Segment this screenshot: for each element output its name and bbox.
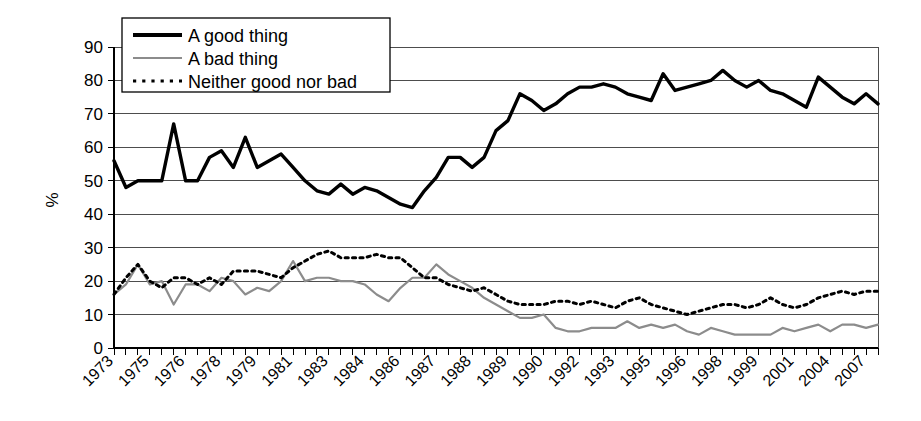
- y-axis-title: %: [43, 192, 62, 207]
- x-tick-label: 1999: [724, 352, 761, 389]
- x-tick-label: 1981: [258, 352, 295, 389]
- x-tick-label-group: 1993: [580, 352, 617, 389]
- y-tick-label: 30: [84, 239, 103, 258]
- x-tick-label-group: 1988: [437, 352, 474, 389]
- legend-label-1: A bad thing: [188, 49, 278, 69]
- x-tick-label: 1989: [473, 352, 510, 389]
- y-tick-label: 10: [84, 306, 103, 325]
- x-tick-label: 1973: [79, 352, 116, 389]
- x-tick-label-group: 1987: [401, 352, 438, 389]
- x-tick-label: 2001: [759, 352, 796, 389]
- x-tick-label-group: 2001: [759, 352, 796, 389]
- x-tick-label-group: 1973: [79, 352, 116, 389]
- y-tick-label: 90: [84, 38, 103, 57]
- x-tick-label-group: 1989: [473, 352, 510, 389]
- x-tick-label-group: 1995: [616, 352, 653, 389]
- x-tick-label: 1976: [151, 352, 188, 389]
- x-tick-label-group: 1998: [688, 352, 725, 389]
- x-tick-label: 1998: [688, 352, 725, 389]
- x-tick-label: 2004: [795, 352, 832, 389]
- x-tick-label-group: 1978: [186, 352, 223, 389]
- chart-container: 0102030405060708090 19731975197619781979…: [0, 0, 921, 421]
- x-tick-label: 1975: [115, 352, 152, 389]
- x-tick-label-group: 2007: [831, 352, 868, 389]
- x-tick-label-group: 1990: [509, 352, 546, 389]
- x-tick-label-group: 1976: [151, 352, 188, 389]
- x-tick-label: 1983: [294, 352, 331, 389]
- x-tick-label-group: 1986: [365, 352, 402, 389]
- y-axis-tick-labels: 0102030405060708090: [84, 38, 103, 358]
- x-tick-label-group: 2004: [795, 352, 832, 389]
- x-tick-label: 1978: [186, 352, 223, 389]
- x-tick-label: 1993: [580, 352, 617, 389]
- legend-label-0: A good thing: [188, 26, 288, 46]
- y-tick-label: 50: [84, 172, 103, 191]
- axis-tickmarks: [108, 47, 878, 355]
- x-tick-label: 1996: [652, 352, 689, 389]
- x-tick-label: 1990: [509, 352, 546, 389]
- x-tick-label-group: 1981: [258, 352, 295, 389]
- line-chart: 0102030405060708090 19731975197619781979…: [0, 0, 921, 421]
- x-tick-label: 2007: [831, 352, 868, 389]
- y-tick-label: 40: [84, 205, 103, 224]
- y-tick-label: 20: [84, 272, 103, 291]
- x-tick-label: 1984: [330, 352, 367, 389]
- series-line-1: [114, 261, 878, 335]
- x-tick-label-group: 1975: [115, 352, 152, 389]
- x-tick-label-group: 1996: [652, 352, 689, 389]
- x-tick-label: 1987: [401, 352, 438, 389]
- data-series: [114, 70, 878, 334]
- x-tick-label: 1986: [365, 352, 402, 389]
- x-tick-label: 1992: [544, 352, 581, 389]
- y-tick-label: 70: [84, 105, 103, 124]
- y-tick-label: 60: [84, 138, 103, 157]
- chart-legend: A good thingA bad thingNeither good nor …: [122, 18, 390, 92]
- x-tick-label-group: 1992: [544, 352, 581, 389]
- x-tick-label: 1995: [616, 352, 653, 389]
- x-axis-tick-labels: 1973197519761978197919811983198419861987…: [79, 352, 868, 389]
- x-tick-label: 1979: [222, 352, 259, 389]
- x-tick-label: 1988: [437, 352, 474, 389]
- y-tick-label: 80: [84, 71, 103, 90]
- x-tick-label-group: 1983: [294, 352, 331, 389]
- x-tick-label-group: 1984: [330, 352, 367, 389]
- legend-label-2: Neither good nor bad: [188, 72, 357, 92]
- x-tick-label-group: 1979: [222, 352, 259, 389]
- x-tick-label-group: 1999: [724, 352, 761, 389]
